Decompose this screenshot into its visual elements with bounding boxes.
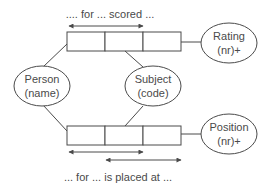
person-entity: Person (name) xyxy=(14,66,70,106)
bottom-fact-box xyxy=(67,126,181,145)
orm-diagram: .... for ... scored ... Person (name) Su… xyxy=(0,0,270,193)
subject-entity: Subject (code) xyxy=(125,66,181,106)
bottom-role-2 xyxy=(105,126,143,145)
person-ref: (name) xyxy=(25,87,60,99)
bottom-role-1 xyxy=(67,126,105,145)
top-role-2 xyxy=(105,32,143,51)
top-role-1 xyxy=(67,32,105,51)
bottom-fact-caption: ... for ... is placed at ... xyxy=(64,171,172,183)
connector-person-bottom xyxy=(43,105,67,131)
top-fact-box xyxy=(67,32,181,51)
subject-label: Subject xyxy=(135,73,172,85)
bottom-role-3 xyxy=(143,126,181,145)
connector-subject-top xyxy=(125,51,143,67)
top-role-3 xyxy=(143,32,181,51)
subject-ref: (code) xyxy=(137,87,168,99)
rating-ref: (nr)+ xyxy=(217,44,241,56)
connector-subject-bottom xyxy=(125,106,143,126)
connector-person-top xyxy=(43,44,67,67)
position-label: Position xyxy=(209,121,248,133)
position-ref: (nr)+ xyxy=(217,135,241,147)
top-fact-caption: .... for ... scored ... xyxy=(66,8,155,20)
rating-value: Rating (nr)+ xyxy=(201,23,257,63)
position-value: Position (nr)+ xyxy=(201,114,257,154)
rating-label: Rating xyxy=(213,30,245,42)
person-label: Person xyxy=(25,73,60,85)
